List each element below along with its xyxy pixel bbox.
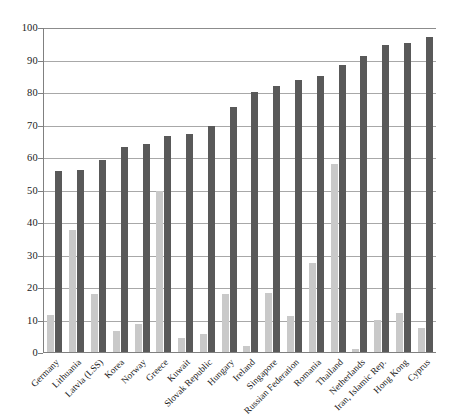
bar-dark-series[interactable] bbox=[164, 136, 171, 352]
y-tick-label: 40 bbox=[4, 218, 38, 229]
bar-group[interactable] bbox=[327, 28, 349, 352]
x-label-slot: Greece bbox=[152, 354, 174, 420]
bar-light-series[interactable] bbox=[418, 328, 425, 352]
bar-light-series[interactable] bbox=[135, 324, 142, 352]
bar-dark-series[interactable] bbox=[121, 147, 128, 352]
bar-dark-series[interactable] bbox=[55, 171, 62, 352]
bar-light-series[interactable] bbox=[69, 230, 76, 352]
bar-dark-series[interactable] bbox=[208, 126, 215, 352]
bar-dark-series[interactable] bbox=[77, 170, 84, 352]
bar-group[interactable] bbox=[44, 28, 66, 352]
y-tick-label: 80 bbox=[4, 88, 38, 99]
bar-chart: 0102030405060708090100 GermanyLithuaniaL… bbox=[0, 0, 449, 420]
bar-light-series[interactable] bbox=[309, 263, 316, 352]
bar-light-series[interactable] bbox=[156, 191, 163, 352]
x-label-slot: Norway bbox=[130, 354, 152, 420]
bar-group[interactable] bbox=[262, 28, 284, 352]
bar-light-series[interactable] bbox=[222, 294, 229, 352]
x-label-slot: Latvia (LSS) bbox=[87, 354, 109, 420]
bar-group[interactable] bbox=[240, 28, 262, 352]
bar-group[interactable] bbox=[305, 28, 327, 352]
bars-layer bbox=[44, 28, 436, 352]
bar-light-series[interactable] bbox=[265, 293, 272, 352]
bar-dark-series[interactable] bbox=[251, 92, 258, 352]
bar-group[interactable] bbox=[131, 28, 153, 352]
x-label-slot: Korea bbox=[108, 354, 130, 420]
bar-group[interactable] bbox=[284, 28, 306, 352]
x-label-slot: Russian Federation bbox=[283, 354, 305, 420]
bar-light-series[interactable] bbox=[91, 294, 98, 352]
y-tick-label: 10 bbox=[4, 315, 38, 326]
bar-light-series[interactable] bbox=[178, 338, 185, 352]
bar-light-series[interactable] bbox=[374, 320, 381, 353]
bar-dark-series[interactable] bbox=[317, 76, 324, 352]
y-tick-label: 0 bbox=[4, 348, 38, 359]
bar-group[interactable] bbox=[66, 28, 88, 352]
bar-group[interactable] bbox=[414, 28, 436, 352]
bar-group[interactable] bbox=[349, 28, 371, 352]
bar-dark-series[interactable] bbox=[382, 45, 389, 352]
y-tick-label: 90 bbox=[4, 55, 38, 66]
bar-dark-series[interactable] bbox=[230, 107, 237, 352]
bar-dark-series[interactable] bbox=[339, 65, 346, 352]
bar-group[interactable] bbox=[175, 28, 197, 352]
bar-light-series[interactable] bbox=[287, 316, 294, 352]
y-tick-label: 20 bbox=[4, 283, 38, 294]
y-tick-label: 70 bbox=[4, 120, 38, 131]
y-tick-label: 50 bbox=[4, 185, 38, 196]
y-tick-label: 100 bbox=[4, 23, 38, 34]
bar-group[interactable] bbox=[218, 28, 240, 352]
y-tick-label: 30 bbox=[4, 250, 38, 261]
bar-dark-series[interactable] bbox=[360, 56, 367, 352]
y-tick-label: 60 bbox=[4, 153, 38, 164]
x-label-slot: Hungary bbox=[218, 354, 240, 420]
x-label-slot: Cyprus bbox=[414, 354, 436, 420]
bar-light-series[interactable] bbox=[331, 164, 338, 353]
bar-light-series[interactable] bbox=[396, 313, 403, 352]
bar-dark-series[interactable] bbox=[404, 43, 411, 352]
plot-area bbox=[43, 28, 436, 353]
bar-dark-series[interactable] bbox=[186, 134, 193, 352]
bar-light-series[interactable] bbox=[243, 346, 250, 352]
bar-dark-series[interactable] bbox=[143, 144, 150, 352]
bar-dark-series[interactable] bbox=[426, 37, 433, 352]
bar-group[interactable] bbox=[153, 28, 175, 352]
bar-group[interactable] bbox=[88, 28, 110, 352]
bar-dark-series[interactable] bbox=[99, 160, 106, 352]
bar-light-series[interactable] bbox=[47, 315, 54, 352]
bar-dark-series[interactable] bbox=[295, 80, 302, 352]
bar-group[interactable] bbox=[371, 28, 393, 352]
bar-light-series[interactable] bbox=[352, 349, 359, 352]
bar-group[interactable] bbox=[393, 28, 415, 352]
bar-light-series[interactable] bbox=[113, 331, 120, 352]
x-label-slot: Hong Kong bbox=[392, 354, 414, 420]
bar-light-series[interactable] bbox=[200, 334, 207, 352]
bar-group[interactable] bbox=[109, 28, 131, 352]
x-axis-labels: GermanyLithuaniaLatvia (LSS)KoreaNorwayG… bbox=[43, 354, 436, 420]
x-label-slot: Slovak Republic bbox=[196, 354, 218, 420]
bar-dark-series[interactable] bbox=[273, 86, 280, 353]
x-label-slot: Romania bbox=[305, 354, 327, 420]
bar-group[interactable] bbox=[196, 28, 218, 352]
